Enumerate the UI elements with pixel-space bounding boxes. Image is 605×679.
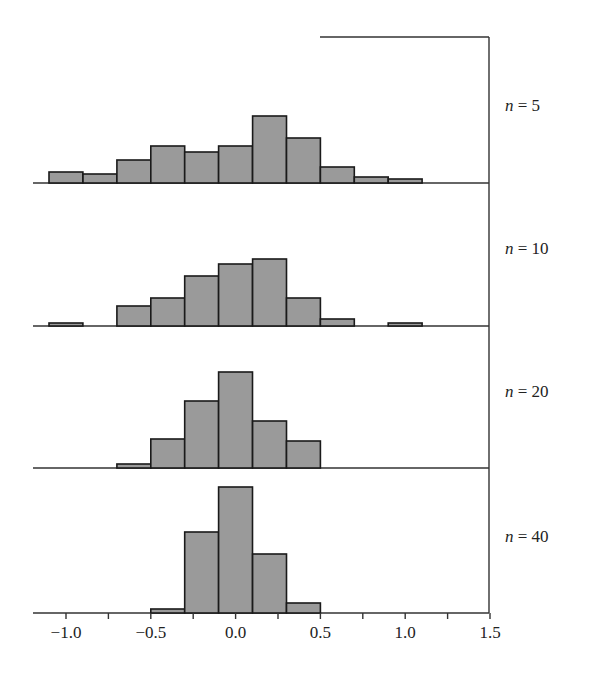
panel-label: n = 20 — [505, 382, 549, 401]
histogram-bar — [253, 421, 287, 468]
x-tick-label: 1.5 — [479, 623, 500, 642]
panel-label-var: n — [505, 239, 514, 258]
histogram-bar — [117, 160, 151, 183]
histogram-bar — [219, 487, 253, 613]
panel-label-var: n — [505, 96, 514, 115]
histogram-bar — [388, 323, 422, 326]
histogram-bar — [185, 152, 219, 183]
histogram-panels-chart: n = 5n = 10n = 20n = 40 −1.0−0.50.00.51.… — [0, 0, 605, 679]
histogram-bar — [219, 146, 253, 183]
x-tick-label: −0.5 — [135, 623, 166, 642]
histogram-bar — [83, 174, 117, 183]
x-axis: −1.0−0.50.00.51.01.5 — [51, 613, 501, 642]
histogram-bar — [117, 306, 151, 326]
histogram-bar — [49, 172, 83, 183]
histogram-bar — [354, 177, 388, 183]
histogram-bar — [253, 259, 287, 326]
histogram-bar — [219, 372, 253, 468]
histogram-bar — [253, 554, 287, 613]
panel-n-5: n = 5 — [33, 96, 540, 183]
panel-label-value: = 10 — [514, 239, 549, 258]
histogram-bar — [287, 441, 321, 468]
panel-label-var: n — [505, 382, 514, 401]
histogram-bar — [287, 603, 321, 613]
histogram-bar — [287, 138, 321, 183]
histogram-bar — [151, 298, 185, 326]
histogram-bar — [185, 276, 219, 326]
histogram-bar — [219, 264, 253, 326]
histogram-bar — [151, 146, 185, 183]
histogram-bar — [253, 116, 287, 183]
panel-n-20: n = 20 — [33, 372, 549, 468]
histogram-bar — [49, 323, 83, 326]
panel-label-value: = 5 — [514, 96, 541, 115]
panel-n-10: n = 10 — [33, 239, 549, 326]
panel-n-40: n = 40 — [33, 487, 549, 613]
x-tick-label: 0.5 — [310, 623, 331, 642]
histogram-bar — [117, 464, 151, 468]
x-tick-label: −1.0 — [51, 623, 82, 642]
histogram-bar — [287, 298, 321, 326]
histogram-bar — [151, 609, 185, 613]
histogram-bar — [320, 167, 354, 183]
panels: n = 5n = 10n = 20n = 40 — [33, 96, 549, 613]
histogram-bar — [388, 179, 422, 183]
x-tick-label: 1.0 — [395, 623, 416, 642]
panel-label: n = 5 — [505, 96, 540, 115]
panel-label: n = 10 — [505, 239, 549, 258]
panel-label-value: = 20 — [514, 382, 549, 401]
histogram-bar — [185, 401, 219, 468]
panel-label-var: n — [505, 527, 514, 546]
x-tick-label: 0.0 — [225, 623, 246, 642]
histogram-bar — [185, 532, 219, 613]
panel-label-value: = 40 — [514, 527, 549, 546]
histogram-bar — [320, 319, 354, 326]
histogram-bar — [151, 439, 185, 468]
panel-label: n = 40 — [505, 527, 549, 546]
